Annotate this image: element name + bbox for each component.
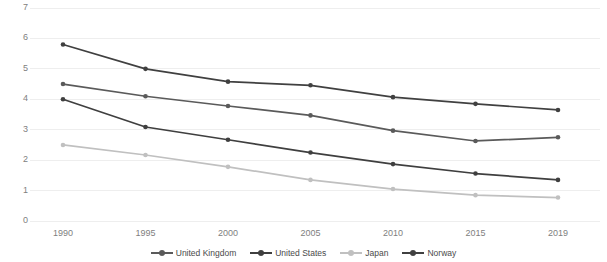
legend-marker-icon xyxy=(151,248,173,257)
legend-marker-icon xyxy=(340,248,362,257)
gridlines xyxy=(30,8,600,221)
legend-marker-icon xyxy=(402,248,424,257)
data-point xyxy=(61,143,66,148)
legend-entry-united-states[interactable]: United States xyxy=(250,248,326,258)
y-axis-tick-label: 1 xyxy=(4,185,28,195)
series-line xyxy=(63,45,558,110)
series-united-kingdom xyxy=(61,82,561,144)
y-axis-tick-label: 2 xyxy=(4,154,28,164)
series-norway xyxy=(61,42,561,112)
data-point xyxy=(143,67,148,72)
data-point xyxy=(143,153,148,158)
x-axis-tick-label: 1990 xyxy=(33,228,93,238)
data-point xyxy=(473,171,478,176)
data-point xyxy=(473,102,478,107)
y-axis-tick-label: 6 xyxy=(4,32,28,42)
data-point xyxy=(473,139,478,144)
x-axis-tick-label: 2015 xyxy=(446,228,506,238)
legend-entry-japan[interactable]: Japan xyxy=(340,248,388,258)
legend-label: Norway xyxy=(427,248,456,258)
line-chart: 01234567 1990199520002005201020152019 Un… xyxy=(0,0,607,262)
data-point xyxy=(308,150,313,155)
data-point xyxy=(143,94,148,99)
data-point xyxy=(391,95,396,100)
data-point xyxy=(226,79,231,84)
legend-label: United Kingdom xyxy=(176,248,236,258)
series-line xyxy=(63,99,558,180)
data-point xyxy=(308,178,313,183)
data-point xyxy=(308,113,313,118)
data-point xyxy=(556,135,561,140)
data-point xyxy=(143,125,148,130)
x-axis-tick-label: 2000 xyxy=(198,228,258,238)
data-point xyxy=(226,104,231,109)
x-axis-tick-label: 2010 xyxy=(363,228,423,238)
legend-entry-norway[interactable]: Norway xyxy=(402,248,456,258)
y-axis-tick-label: 4 xyxy=(4,93,28,103)
data-point xyxy=(391,128,396,133)
data-point xyxy=(473,193,478,198)
x-axis-tick-label: 1995 xyxy=(116,228,176,238)
y-axis-tick-label: 7 xyxy=(4,2,28,12)
data-point xyxy=(556,178,561,183)
plot-area xyxy=(0,0,607,262)
data-point xyxy=(308,83,313,88)
data-point xyxy=(226,137,231,142)
x-axis-tick-label: 2019 xyxy=(528,228,588,238)
data-point xyxy=(61,97,66,102)
legend-marker-icon xyxy=(250,248,272,257)
x-axis-tick-label: 2005 xyxy=(281,228,341,238)
data-point xyxy=(391,162,396,167)
series-line xyxy=(63,84,558,141)
data-point xyxy=(61,82,66,87)
series-united-states xyxy=(61,97,561,182)
series-lines xyxy=(61,42,561,200)
data-point xyxy=(226,165,231,170)
data-point xyxy=(556,195,561,200)
legend-entry-united-kingdom[interactable]: United Kingdom xyxy=(151,248,236,258)
y-axis-tick-label: 5 xyxy=(4,63,28,73)
y-axis-tick-label: 3 xyxy=(4,124,28,134)
data-point xyxy=(556,108,561,113)
chart-legend: United KingdomUnited StatesJapanNorway xyxy=(0,243,607,262)
y-axis-tick-label: 0 xyxy=(4,215,28,225)
legend-label: Japan xyxy=(365,248,388,258)
data-point xyxy=(61,42,66,47)
data-point xyxy=(391,187,396,192)
legend-label: United States xyxy=(275,248,326,258)
